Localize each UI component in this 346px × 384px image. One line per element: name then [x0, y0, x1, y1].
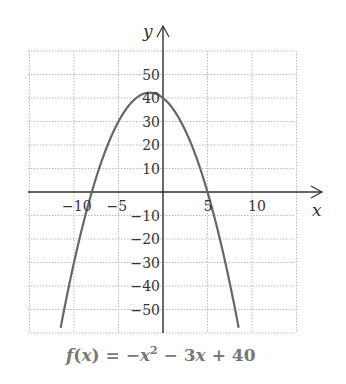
x-axis-label: x	[312, 200, 322, 220]
y-tick-label: 50	[142, 67, 160, 83]
x-tick-label: 10	[248, 198, 266, 214]
y-tick-label: 30	[142, 114, 160, 130]
y-tick-label: 10	[142, 161, 160, 177]
y-tick-label: 20	[142, 137, 160, 153]
axes	[28, 26, 322, 333]
parabola-chart: −10−5510 5040302010−10−20−30−40−50 y x f…	[0, 0, 346, 384]
function-caption: f(x) = −x2 − 3x + 40	[65, 344, 256, 365]
x-tick-label: −5	[107, 198, 128, 214]
x-tick-label: −10	[62, 198, 92, 214]
y-tick-label: 40	[142, 90, 160, 106]
y-tick-label: −10	[130, 208, 160, 224]
x-tick-labels: −10−5510	[62, 198, 266, 214]
y-tick-label: −40	[130, 278, 160, 294]
x-tick-label: 5	[204, 198, 213, 214]
y-tick-label: −50	[130, 302, 160, 318]
y-axis-label: y	[142, 21, 153, 41]
y-tick-label: −30	[130, 255, 160, 271]
y-tick-label: −20	[130, 231, 160, 247]
